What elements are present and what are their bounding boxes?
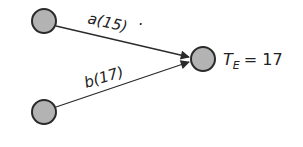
edge-b-label: b(17) [82,63,126,92]
node-end [191,47,215,71]
result-subscript: E [233,59,240,72]
network-diagram: a(15) · b(17) TE= 17 [0,0,303,147]
edge-a-label: a(15) [86,9,129,36]
result-label: TE= 17 [223,50,283,72]
edge-a-dot: · [138,16,143,34]
edge-b-arrow [56,62,189,107]
node-start-b [32,100,56,124]
node-start-a [32,9,56,33]
result-equals: = 17 [244,50,283,69]
